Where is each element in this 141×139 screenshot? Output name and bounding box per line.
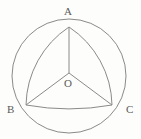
geometry-figure: A B C O	[0, 0, 141, 139]
vertex-label-o: O	[64, 78, 72, 89]
geometry-diagram-svg	[0, 0, 141, 139]
vertex-label-c: C	[126, 104, 133, 115]
vertex-label-b: B	[7, 104, 14, 115]
segment-ob	[26, 73, 69, 105]
vertex-label-a: A	[64, 6, 72, 17]
segment-oc	[69, 73, 112, 105]
